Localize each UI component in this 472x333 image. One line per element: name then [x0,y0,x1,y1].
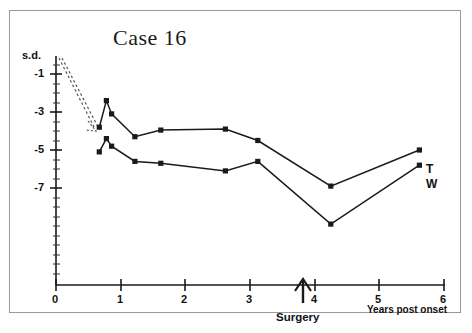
x-tick-label-3: 3 [246,294,252,305]
chart-title: Case 16 [113,27,187,49]
y-tick-label--3: -3 [27,106,44,117]
y-axis-unit-label: s.d. [22,50,41,61]
series-line-w [99,139,419,225]
series-label-w: W [426,178,437,190]
series-label-t: T [426,163,433,175]
series-line-t [99,101,419,187]
x-axis-title: Years post onset [367,305,447,315]
y-tick-label--1: -1 [27,68,44,79]
x-tick-label-1: 1 [117,294,123,305]
series-markers-w [97,136,422,227]
y-tick-label--7: -7 [27,182,44,193]
series-markers-t [97,98,422,189]
onset-decline-arrow-icon [59,58,98,131]
chart-figure: Case 16 s.d. -1 -3 -5 -7 0 1 2 3 4 5 6 Y… [0,0,472,333]
y-tick-label--5: -5 [27,144,44,155]
x-tick-label-2: 2 [181,294,187,305]
surgery-annotation-label: Surgery [276,312,319,324]
plot-area [0,0,472,333]
surgery-arrow-icon [295,279,311,303]
x-tick-label-4: 4 [311,294,317,305]
x-tick-label-0: 0 [52,294,58,305]
